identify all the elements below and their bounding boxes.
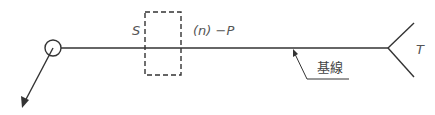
label-s: S — [132, 23, 140, 38]
label-t: T — [416, 42, 425, 57]
label-n-p: (n) −P — [193, 23, 234, 38]
arrowhead-icon — [21, 96, 29, 108]
weld-symbol-dashed-box — [145, 12, 181, 75]
tail-fork-icon — [388, 23, 414, 77]
welding-symbol-diagram: S (n) −P T 基線 — [0, 0, 435, 115]
label-reference-line: 基線 — [317, 60, 343, 75]
arrow-line — [21, 48, 53, 108]
